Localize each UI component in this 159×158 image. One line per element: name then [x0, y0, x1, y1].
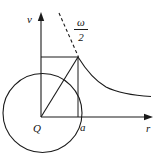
tangent-dashed-line: [59, 13, 79, 57]
core-circle: [3, 74, 82, 153]
origin-label: Q: [33, 122, 41, 134]
radius-a-label: a: [80, 121, 86, 133]
omega-over-two-annotation: ω 2: [74, 16, 88, 43]
omega-symbol: ω: [77, 16, 85, 28]
r-axis-arrowhead: [144, 114, 153, 120]
v-axis-label: v: [27, 13, 32, 25]
vortex-decay-curve: [78, 57, 151, 97]
v-axis: [38, 12, 44, 117]
r-axis: [41, 114, 153, 120]
denominator-two: 2: [78, 31, 84, 43]
diagram-canvas: v r Q a ω 2: [0, 0, 159, 158]
r-axis-label: r: [146, 122, 151, 134]
physics-diagram-figure: v r Q a ω 2: [0, 0, 159, 158]
v-axis-arrowhead: [38, 12, 44, 21]
